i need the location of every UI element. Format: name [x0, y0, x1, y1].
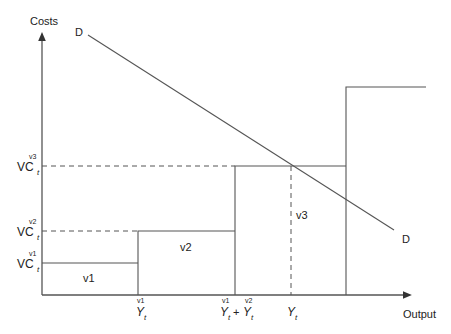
- x-axis-label: Output: [403, 308, 436, 320]
- y-tick-vc-v2: VC t v2: [17, 218, 40, 242]
- demand-line: [88, 35, 394, 230]
- svg-text:v1: v1: [222, 297, 230, 304]
- svg-text:VC: VC: [17, 160, 34, 174]
- svg-text:t: t: [228, 313, 231, 322]
- svg-text:t: t: [251, 313, 254, 322]
- x-tick-y-t: Y t: [287, 305, 298, 322]
- step-cost-curve: [42, 87, 426, 295]
- svg-text:t: t: [37, 265, 40, 274]
- region-label-v1: v1: [83, 272, 95, 284]
- svg-text:t: t: [37, 168, 40, 177]
- region-label-v2: v2: [180, 241, 192, 253]
- svg-text:v1: v1: [137, 297, 145, 304]
- x-tick-y-v1: v1 Y t: [136, 297, 147, 322]
- demand-label-start: D: [75, 26, 83, 38]
- step-cost-diagram: Costs Output D D v1 v2 v3 VC t v1 VC t v…: [0, 0, 451, 334]
- svg-text:t: t: [144, 313, 147, 322]
- svg-text:VC: VC: [17, 257, 34, 271]
- svg-text:t: t: [37, 233, 40, 242]
- y-tick-vc-v1: VC t v1: [17, 250, 40, 274]
- region-label-v3: v3: [296, 209, 308, 221]
- svg-text:+: +: [233, 306, 239, 318]
- svg-text:v1: v1: [29, 250, 37, 257]
- svg-text:v3: v3: [29, 153, 37, 160]
- svg-text:v2: v2: [245, 297, 253, 304]
- y-tick-vc-v3: VC t v3: [17, 153, 40, 177]
- x-tick-y-v1-plus-v2: v1 Y t + v2 Y t: [220, 297, 254, 322]
- y-axis-label: Costs: [30, 15, 59, 27]
- svg-text:v2: v2: [29, 218, 37, 225]
- svg-text:t: t: [295, 313, 298, 322]
- svg-text:VC: VC: [17, 225, 34, 239]
- demand-label-end: D: [402, 233, 410, 245]
